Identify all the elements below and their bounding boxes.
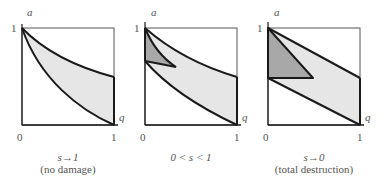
origin-tick: 0 — [17, 131, 23, 143]
feasible-region — [22, 28, 114, 125]
y-tick-1: 1 — [134, 22, 140, 34]
x-tick-1: 1 — [357, 131, 363, 143]
caption-description: (no damage) — [18, 163, 118, 175]
x-axis-label: q — [242, 111, 248, 123]
x-axis-label: q — [365, 111, 371, 123]
y-axis-label: a — [151, 6, 157, 18]
panel-total-destruction — [268, 22, 364, 125]
origin-tick: 0 — [140, 131, 146, 143]
panel-partial-damage — [145, 22, 241, 125]
x-tick-1: 1 — [234, 131, 240, 143]
x-axis-label: q — [119, 111, 125, 123]
y-axis-label: a — [274, 6, 280, 18]
panel-no-damage — [22, 24, 118, 125]
y-tick-1: 1 — [257, 22, 263, 34]
caption-condition: s→1 — [18, 151, 118, 163]
origin-tick: 0 — [263, 131, 269, 143]
caption-no-damage: s→1 (no damage) — [18, 151, 118, 175]
y-axis-label: a — [27, 6, 33, 18]
caption-total-destruction: s→0 (total destruction) — [259, 151, 369, 175]
caption-description: (total destruction) — [259, 163, 369, 175]
x-tick-1: 1 — [111, 131, 117, 143]
caption-condition: s→0 — [259, 151, 369, 163]
y-tick-1: 1 — [11, 22, 17, 34]
caption-condition: 0 < s < 1 — [141, 151, 241, 163]
caption-partial-damage: 0 < s < 1 — [141, 151, 241, 163]
